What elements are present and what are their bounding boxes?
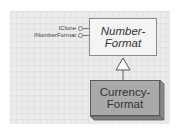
class-box-face: Currency- Format xyxy=(90,80,160,116)
class-name-line2: Format xyxy=(107,98,143,110)
class-box-currencyformat: Currency- Format xyxy=(90,80,164,120)
class-name-line1: Currency- xyxy=(100,86,150,98)
